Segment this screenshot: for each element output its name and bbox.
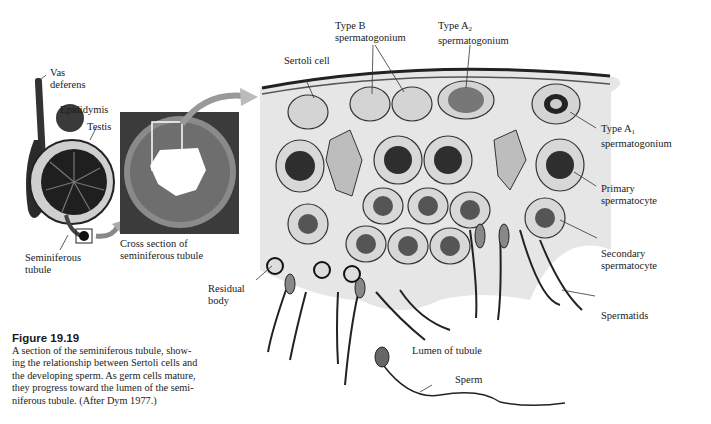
label-seminiferous-tubule: Seminiferous tubule [25, 252, 81, 276]
label-testis: Testis [87, 121, 111, 133]
testis-illustration [26, 78, 124, 243]
label-secondary-spermatocyte: Secondary spermatocyte [601, 248, 657, 272]
figure-caption: Figure 19.19 A section of the seminifero… [12, 331, 227, 407]
label-cross-section: Cross section of seminiferous tubule [120, 238, 203, 262]
cross-section-illustration [120, 88, 258, 234]
label-residual-body: Residual body [208, 283, 245, 307]
label-sperm: Sperm [455, 374, 482, 386]
figure-title: Figure 19.19 [12, 331, 227, 345]
label-spermatids: Spermatids [601, 310, 648, 322]
label-primary-spermatocyte: Primary spermatocyte [601, 183, 657, 207]
label-type-b-spermatogonium: Type B spermatogonium [335, 20, 406, 44]
label-type-a2-spermatogonium: Type A2 spermatogonium [438, 20, 509, 47]
label-sertoli-cell: Sertoli cell [284, 55, 330, 67]
label-lumen-of-tubule: Lumen of tubule [412, 345, 482, 357]
figure-caption-text: A section of the seminiferous tubule, sh… [12, 345, 227, 407]
label-vas-deferens: Vas deferens [50, 67, 86, 91]
label-epididymis: Epididymis [60, 104, 108, 116]
label-type-a1-spermatogonium: Type A1 spermatogonium [601, 123, 672, 150]
